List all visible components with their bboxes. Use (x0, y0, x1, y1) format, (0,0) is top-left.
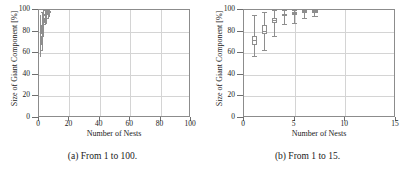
subfigure-b: Size of Giant Component [%] Number of Ne… (205, 0, 410, 184)
gridline-vertical (161, 10, 162, 116)
gridline-vertical (69, 10, 70, 116)
y-axis-tick (237, 9, 243, 10)
gridline-horizontal (39, 32, 189, 33)
y-axis-tick-label-b: 40 (211, 70, 235, 78)
boxplot-marker (49, 10, 51, 116)
plot-area-a (38, 9, 190, 117)
y-axis-tick (32, 95, 38, 96)
chart-panel-a: Size of Giant Component [%] Number of Ne… (0, 0, 205, 140)
boxplot-cap-lower (252, 56, 257, 57)
gridline-vertical (345, 10, 346, 116)
x-axis-tick-label-b: 0 (230, 120, 256, 128)
boxplot-marker (279, 10, 289, 116)
y-axis-tick (237, 31, 243, 32)
boxplot-marker (249, 10, 259, 116)
boxplot-marker (259, 10, 269, 116)
x-axis-tick-label-a: 0 (25, 120, 51, 128)
gridline-vertical (100, 10, 101, 116)
y-axis-tick (32, 31, 38, 32)
subfigure-a: Size of Giant Component [%] Number of Ne… (0, 0, 205, 184)
x-axis-tick-label-a: 80 (147, 120, 173, 128)
y-axis-tick (237, 95, 243, 96)
y-axis-tick-label-b: 100 (211, 5, 235, 13)
y-axis-tick (32, 9, 38, 10)
boxplot-median (282, 15, 287, 16)
boxplot-median (292, 13, 297, 14)
x-axis-title-b: Number of Nests (243, 129, 395, 138)
x-axis-tick-label-a: 40 (86, 120, 112, 128)
boxplot-box (262, 25, 267, 34)
y-axis-tick-label-a: 60 (6, 48, 30, 56)
boxplot-marker (300, 10, 310, 116)
x-axis-tick-label-b: 10 (331, 120, 357, 128)
plot-area-b (243, 9, 395, 117)
boxplot-cap-lower (292, 23, 297, 24)
boxplot-cap-upper (262, 12, 267, 13)
gridline-horizontal (39, 75, 189, 76)
x-axis-tick-label-a: 20 (55, 120, 81, 128)
boxplot-cap-upper (292, 10, 297, 11)
boxplot-median (312, 12, 317, 13)
y-axis-tick (237, 52, 243, 53)
boxplot-median (49, 12, 51, 13)
y-axis-tick-label-b: 60 (211, 48, 235, 56)
boxplot-median (272, 20, 277, 21)
caption-b: (b) From 1 to 15. (205, 150, 410, 162)
y-axis-tick-label-b: 20 (211, 91, 235, 99)
boxplot-cap-lower (49, 16, 51, 17)
boxplot-whisker (274, 10, 275, 36)
boxplot-cap-upper (252, 15, 257, 16)
gridline-vertical (130, 10, 131, 116)
y-axis-tick (32, 52, 38, 53)
y-axis-tick-label-a: 100 (6, 5, 30, 13)
boxplot-whisker (284, 10, 285, 24)
boxplot-cap-lower (312, 16, 317, 17)
y-axis-tick-label-a: 80 (6, 27, 30, 35)
caption-a: (a) From 1 to 100. (0, 150, 205, 162)
boxplot-cap-lower (282, 24, 287, 25)
boxplot-median (262, 31, 267, 32)
boxplot-marker (290, 10, 300, 116)
gridline-horizontal (39, 96, 189, 97)
y-axis-tick (32, 74, 38, 75)
figure-container: Size of Giant Component [%] Number of Ne… (0, 0, 410, 184)
x-axis-title-a: Number of Nests (38, 129, 190, 138)
boxplot-cap-lower (272, 36, 277, 37)
boxplot-cap-lower (302, 18, 307, 19)
boxplot-cap-upper (272, 10, 277, 11)
y-axis-tick (237, 74, 243, 75)
boxplot-marker (269, 10, 279, 116)
x-axis-tick-label-b: 5 (281, 120, 307, 128)
x-axis-tick-label-a: 60 (116, 120, 142, 128)
y-axis-tick-label-b: 80 (211, 27, 235, 35)
boxplot-cap-lower (262, 50, 267, 51)
y-axis-tick-label-a: 40 (6, 70, 30, 78)
gridline-horizontal (39, 53, 189, 54)
chart-panel-b: Size of Giant Component [%] Number of Ne… (205, 0, 410, 140)
boxplot-marker (310, 10, 320, 116)
boxplot-median (252, 40, 257, 41)
y-axis-tick-label-a: 20 (6, 91, 30, 99)
boxplot-cap-upper (282, 10, 287, 11)
x-axis-tick-label-b: 15 (382, 120, 408, 128)
x-axis-tick-label-a: 100 (177, 120, 203, 128)
boxplot-median (302, 12, 307, 13)
